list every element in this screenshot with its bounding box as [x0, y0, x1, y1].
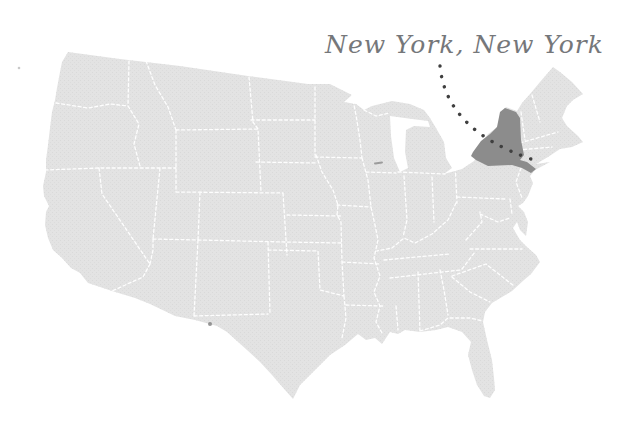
us-map-figure: New York, New York — [0, 0, 619, 440]
location-label: New York, New York — [325, 30, 555, 59]
us-map — [0, 0, 619, 440]
